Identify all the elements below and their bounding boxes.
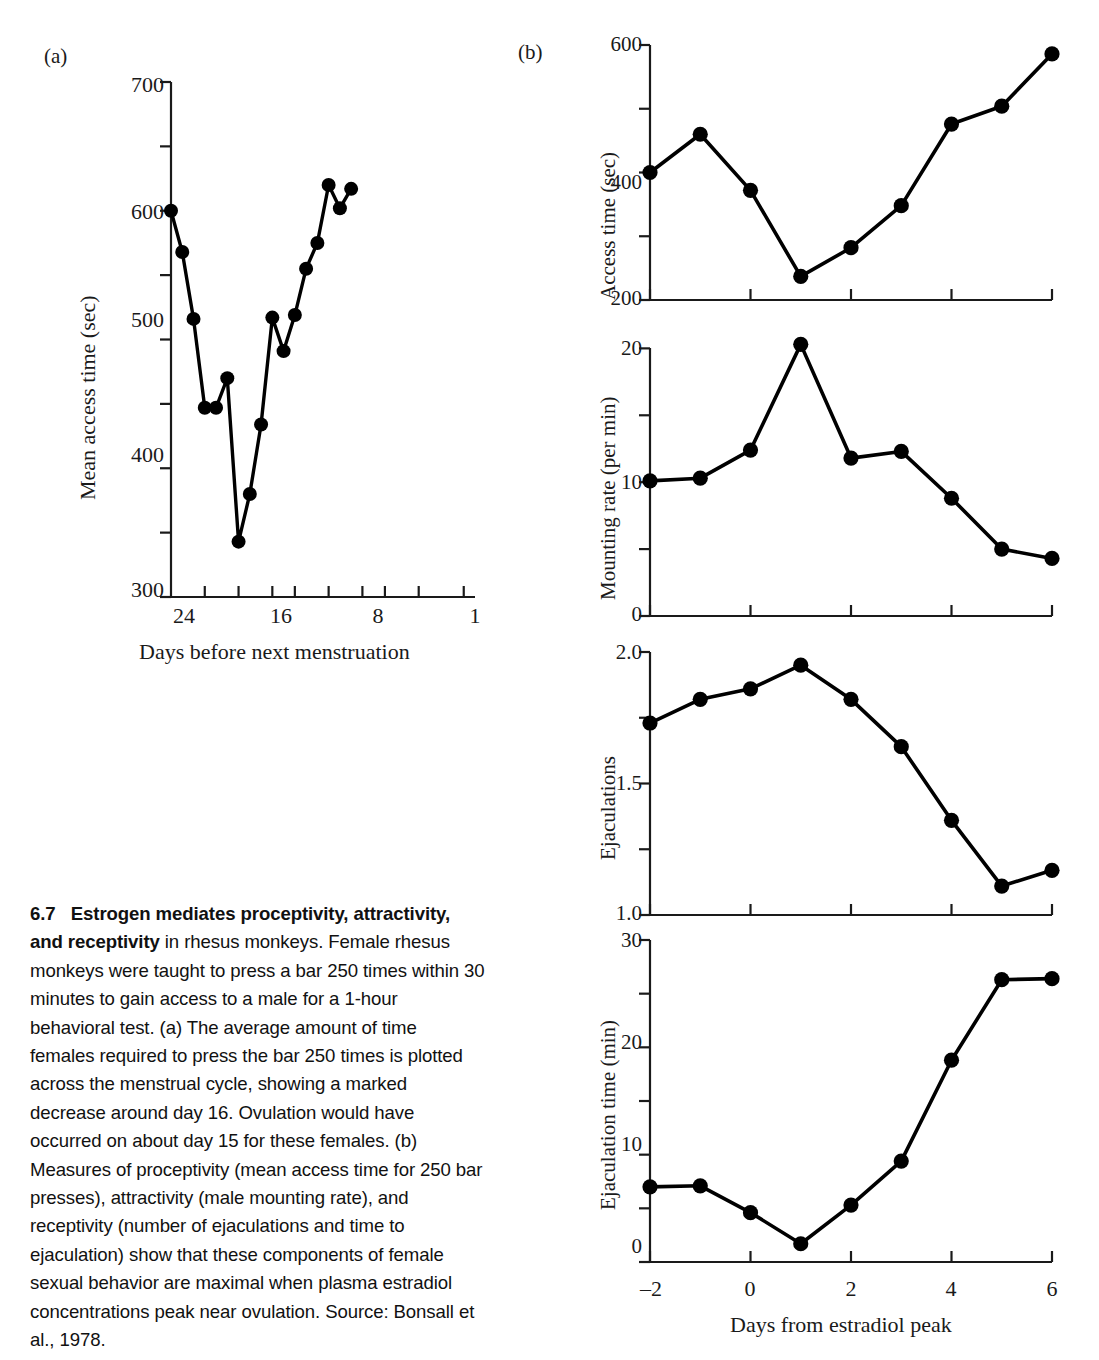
caption-number: 6.7 [30, 903, 56, 924]
caption-body: in rhesus monkeys. Female rhesus monkeys… [30, 931, 485, 1350]
figure-caption: 6.7 Estrogen mediates proceptivity, attr… [30, 900, 485, 1355]
panel-b-x-axis-title: Days from estradiol peak [730, 1312, 952, 1338]
